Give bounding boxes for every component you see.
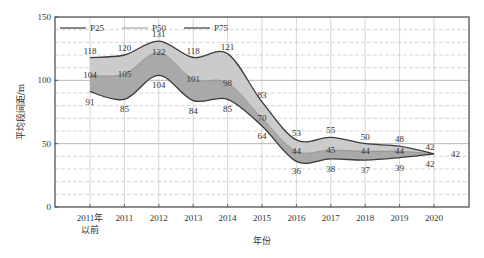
label-p25: 37 bbox=[361, 165, 371, 175]
legend-item-p50: P50 bbox=[122, 23, 167, 33]
label-p25: 39 bbox=[395, 163, 405, 173]
label-p75: 55 bbox=[326, 125, 336, 135]
x-tick-label: 以前 bbox=[81, 224, 99, 235]
label-p25: 38 bbox=[326, 164, 336, 174]
legend-item-p25: P25 bbox=[60, 23, 105, 33]
legend-item-p75: P75 bbox=[184, 23, 229, 33]
legend-label: P75 bbox=[214, 23, 229, 33]
label-p50: 122 bbox=[152, 47, 166, 57]
y-tick-label: 100 bbox=[38, 75, 52, 85]
x-tick-label: 2015 bbox=[253, 213, 272, 223]
label-p50: 98 bbox=[223, 78, 233, 88]
label-p75: 121 bbox=[221, 42, 235, 52]
label-p50: 70 bbox=[258, 113, 268, 123]
x-tick-label: 2012 bbox=[150, 213, 168, 223]
x-tick-label: 2011年 bbox=[77, 212, 104, 223]
y-tick-label: 0 bbox=[47, 202, 52, 212]
legend-label: P50 bbox=[152, 23, 167, 33]
y-axis-label: 平均段间距/m bbox=[15, 83, 26, 140]
label-p75: 42 bbox=[426, 142, 435, 152]
x-tick-label: 2013 bbox=[184, 213, 203, 223]
label-p75: 48 bbox=[395, 134, 405, 144]
label-p75: 50 bbox=[361, 132, 371, 142]
label-p25: 85 bbox=[223, 104, 233, 114]
label-p25: 85 bbox=[120, 104, 130, 114]
x-axis-ticks: 2011年以前201120122013201420152016201720182… bbox=[77, 204, 444, 235]
x-tick-label: 2017 bbox=[322, 213, 341, 223]
x-tick-label: 2011 bbox=[116, 213, 134, 223]
percentile-band-chart: 050100150 2011年以前20112012201320142015201… bbox=[0, 0, 484, 258]
label-p25: 42 bbox=[426, 159, 435, 169]
legend: P25P50P75 bbox=[60, 23, 229, 33]
label-p50: 44 bbox=[395, 146, 405, 156]
y-tick-label: 50 bbox=[42, 139, 52, 149]
x-tick-label: 2016 bbox=[287, 213, 306, 223]
x-tick-label: 2018 bbox=[356, 213, 375, 223]
y-tick-label: 150 bbox=[38, 12, 52, 22]
x-tick-label: 2020 bbox=[425, 213, 444, 223]
label-p75: 53 bbox=[292, 128, 302, 138]
label-p50: 42 bbox=[451, 149, 460, 159]
label-p75: 118 bbox=[187, 46, 201, 56]
label-p25: 91 bbox=[86, 97, 95, 107]
label-p50: 44 bbox=[292, 146, 302, 156]
label-p75: 83 bbox=[258, 90, 268, 100]
label-p50: 44 bbox=[361, 146, 371, 156]
label-p50: 45 bbox=[326, 145, 336, 155]
label-p50: 105 bbox=[118, 69, 132, 79]
label-p25: 36 bbox=[292, 166, 302, 176]
label-p50: 101 bbox=[186, 74, 200, 84]
label-p25: 84 bbox=[189, 106, 199, 116]
label-p25: 64 bbox=[258, 131, 268, 141]
label-p25: 104 bbox=[152, 80, 166, 90]
x-axis-label: 年份 bbox=[253, 235, 271, 246]
label-p50: 104 bbox=[83, 70, 97, 80]
x-tick-label: 2014 bbox=[219, 213, 238, 223]
x-tick-label: 2019 bbox=[391, 213, 410, 223]
label-p75: 118 bbox=[83, 46, 97, 56]
label-p75: 120 bbox=[118, 43, 132, 53]
legend-label: P25 bbox=[90, 23, 105, 33]
